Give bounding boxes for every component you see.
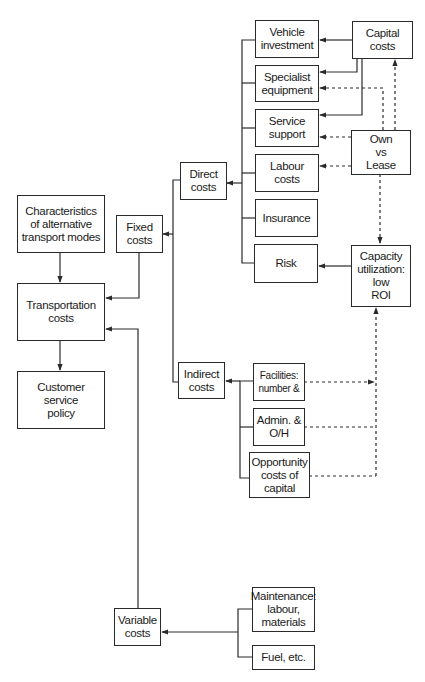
node-opportunity-costs: Opportunity costs of capital <box>249 452 310 498</box>
transport-cost-diagram: Characteristics of alternative transport… <box>0 0 425 682</box>
connector-lines <box>0 0 425 682</box>
arrow-capital-to-service <box>320 58 362 115</box>
node-fuel: Fuel, etc. <box>252 645 315 670</box>
arrow-variable-to-transportation <box>106 329 138 608</box>
node-labour-costs: Labour costs <box>255 154 319 192</box>
node-risk: Risk <box>254 244 318 283</box>
node-facilities: Facilities: number & <box>253 363 305 401</box>
arrow-fixed-to-transportation <box>106 253 139 298</box>
node-own-vs-lease: Own vs Lease <box>351 130 411 175</box>
node-characteristics: Characteristics of alternative transport… <box>17 195 105 253</box>
node-maintenance: Maintenance: labour, materials <box>252 587 315 632</box>
node-capacity-utilization: Capacity utilization: low ROI <box>351 245 411 307</box>
node-service-support: Service support <box>255 109 319 147</box>
node-specialist-equipment: Specialist equipment <box>255 65 319 102</box>
arrow-own-to-specialist <box>320 88 383 130</box>
node-direct-costs: Direct costs <box>180 162 227 200</box>
node-variable-costs: Variable costs <box>114 608 161 646</box>
bracket-direct-children <box>242 40 255 263</box>
node-customer-service-policy: Customer service policy <box>17 371 105 429</box>
node-transportation-costs: Transportation costs <box>17 283 105 341</box>
node-vehicle-investment: Vehicle investment <box>255 20 319 58</box>
node-fixed-costs: Fixed costs <box>116 215 163 253</box>
arrow-capital-to-specialist <box>320 58 357 72</box>
node-admin-oh: Admin. & O/H <box>253 408 305 446</box>
node-insurance: Insurance <box>255 199 318 237</box>
node-capital-costs: Capital costs <box>352 21 413 59</box>
node-indirect-costs: Indirect costs <box>178 362 225 399</box>
bracket-direct-indirect <box>173 180 180 382</box>
